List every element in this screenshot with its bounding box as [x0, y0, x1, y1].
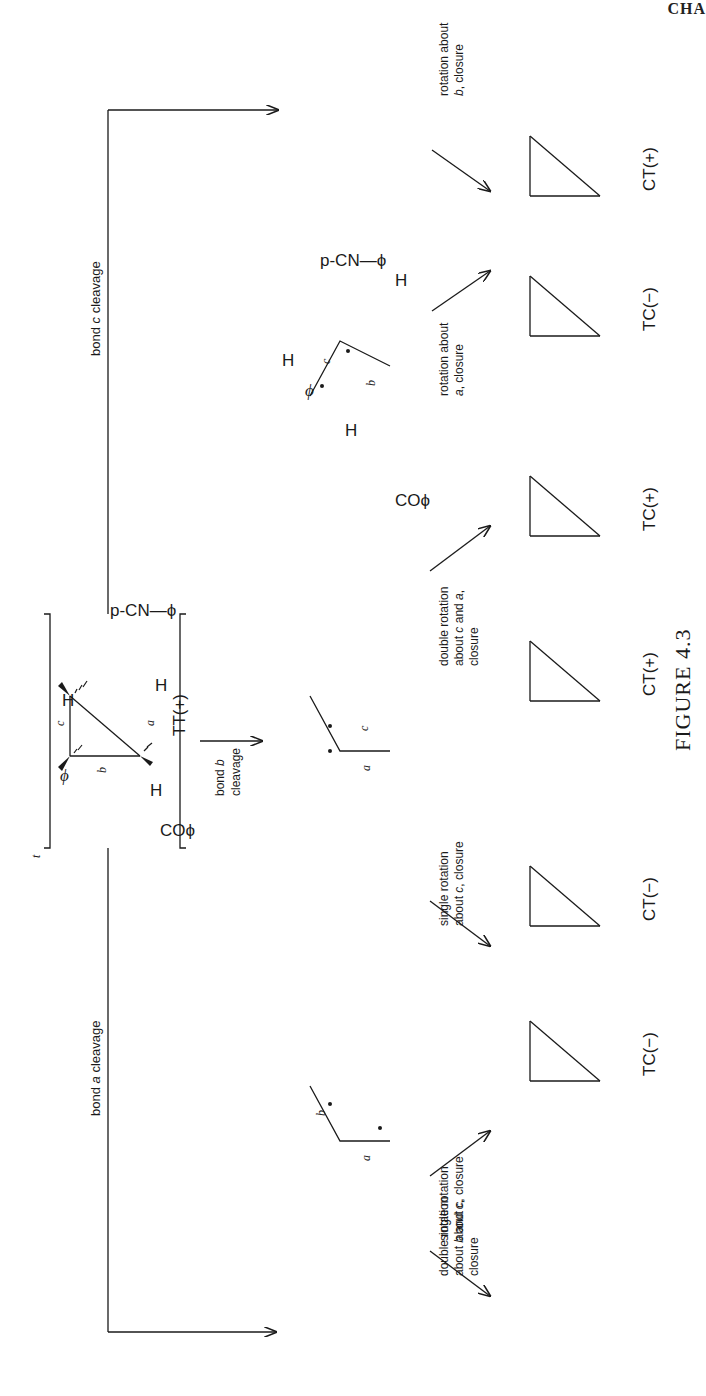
svg-text:b: b [95, 767, 109, 773]
intermediate-bond-a: b c [310, 341, 390, 396]
svg-text:a: a [359, 765, 373, 771]
svg-text:ϕ: ϕ [60, 766, 69, 785]
svg-text:TC(−): TC(−) [640, 1032, 659, 1076]
label-tt-plus: TT(+) [170, 694, 189, 736]
svg-text:H: H [150, 781, 162, 800]
svg-text:p-CN—ϕ: p-CN—ϕ [110, 601, 176, 620]
svg-text:a, closure: a, closure [452, 344, 466, 396]
svg-text:about c and a,: about c and a, [452, 590, 466, 666]
figure-page: CHA t [0, 0, 706, 1396]
svg-text:p-CN—ϕ: p-CN—ϕ [320, 251, 386, 270]
product-tc-minus-1: TC(−) [530, 276, 659, 336]
svg-text:H: H [282, 351, 294, 370]
svg-text:closure: closure [467, 1237, 481, 1276]
svg-text:COϕ: COϕ [160, 821, 195, 840]
svg-text:a: a [359, 1155, 373, 1161]
intermediate-bond-c: b a [310, 1086, 390, 1161]
svg-text:COϕ: COϕ [395, 491, 430, 510]
product-ct-minus: CT(−) [530, 866, 659, 926]
svg-text:c: c [319, 358, 333, 364]
arrow-label-single-rotation-c-1: single rotation [437, 851, 451, 926]
svg-text:a: a [143, 720, 157, 726]
arrow-label-double-rotation-ca: double rotation [437, 587, 451, 666]
svg-text:cleavage: cleavage [229, 748, 243, 796]
arrow-label-rotation-b: rotation about [437, 22, 451, 96]
svg-text:b: b [364, 380, 378, 386]
svg-text:closure: closure [467, 627, 481, 666]
svg-text:H: H [62, 691, 74, 710]
svg-text:b: b [314, 1110, 328, 1116]
product-tc-minus-2: TC(−) [530, 1021, 659, 1081]
product-ct-plus-1: CT(+) [530, 136, 659, 196]
svg-text:H: H [155, 676, 167, 695]
arrow-label-single-rotation-c-2: single rotation [437, 1166, 451, 1241]
svg-text:TC(−): TC(−) [640, 287, 659, 331]
label-bond-b-cleavage: bond b [213, 759, 227, 796]
step-arrows: rotation about b, closure rotation about… [430, 22, 490, 1296]
arrow-label-rotation-a: rotation about [437, 322, 451, 396]
svg-text:about c, closure: about c, closure [452, 841, 466, 926]
svg-text:H: H [345, 421, 357, 440]
product-ct-plus-2: CT(+) [530, 641, 659, 701]
svg-text:c: c [357, 725, 371, 731]
label-bond-c-cleavage: bond c cleavage [88, 261, 103, 356]
svg-text:ϕ: ϕ [305, 381, 314, 400]
starting-material-tt-plus: t c b a [29, 601, 195, 858]
svg-text:b, closure: b, closure [452, 44, 466, 96]
product-tc-plus: TC(+) [530, 476, 659, 536]
svg-text:H: H [395, 271, 407, 290]
label-bond-a-cleavage: bond a cleavage [88, 1021, 103, 1116]
svg-text:TC(+): TC(+) [640, 487, 659, 531]
svg-text:CT(+): CT(+) [640, 147, 659, 191]
svg-text:CT(−): CT(−) [640, 877, 659, 921]
rotated-figure: t c b a [0, 0, 706, 1396]
svg-text:about c, closure: about c, closure [452, 1156, 466, 1241]
figure-caption: FIGURE 4.3 [670, 629, 695, 751]
bracket-superscript: t [29, 854, 43, 858]
products: CT(+) TC(−) TC(+) CT(+) CT(−) [530, 136, 659, 1081]
intermediate-bond-b: c a [310, 696, 390, 771]
svg-text:c: c [53, 720, 67, 726]
svg-text:CT(+): CT(+) [640, 652, 659, 696]
